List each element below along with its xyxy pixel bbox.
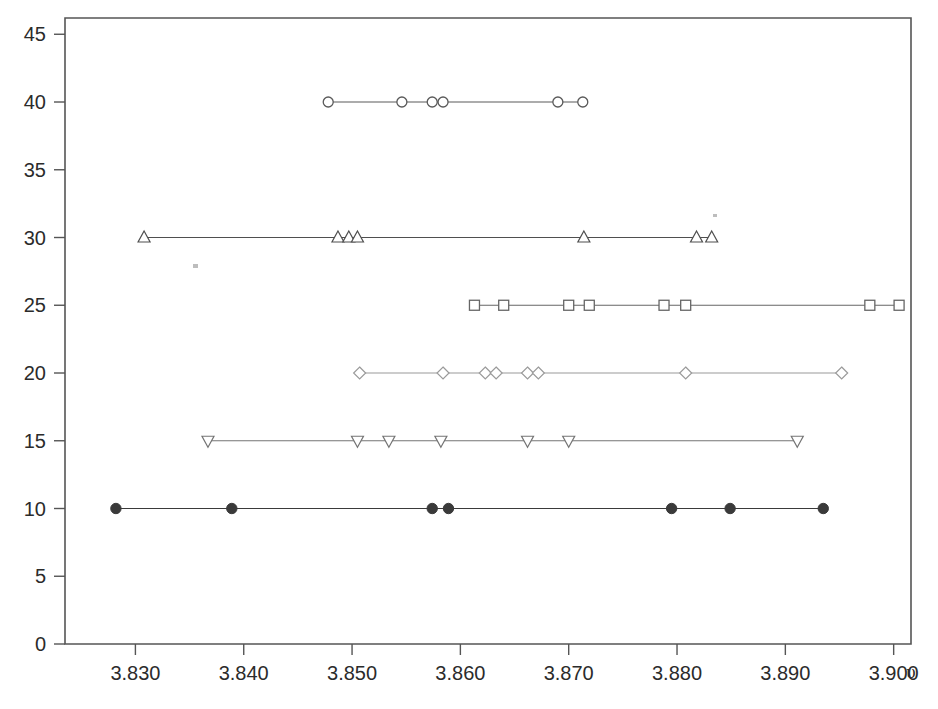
x-tick-label: 3.860 bbox=[435, 662, 485, 684]
data-point-open-square bbox=[469, 300, 479, 310]
x-axis-ticks: 3.8303.8403.8503.8603.8703.8803.8903.900 bbox=[110, 644, 918, 684]
series-row-10 bbox=[111, 503, 829, 513]
y-tick-label: 35 bbox=[24, 159, 46, 181]
data-point-triangle-down bbox=[563, 436, 575, 447]
data-point-open-diamond bbox=[532, 367, 544, 379]
y-tick-label: 10 bbox=[24, 498, 46, 520]
series-row-15 bbox=[202, 436, 803, 447]
data-point-open-diamond bbox=[437, 367, 449, 379]
data-point-open-circle bbox=[427, 97, 437, 107]
data-point-triangle-down bbox=[383, 436, 395, 447]
data-point-open-square bbox=[584, 300, 594, 310]
data-point-triangle-down bbox=[791, 436, 803, 447]
data-point-triangle-up bbox=[138, 231, 150, 242]
scatter-plot: 3.8303.8403.8503.8603.8703.8803.8903.900… bbox=[0, 0, 938, 709]
data-point-open-diamond bbox=[354, 367, 366, 379]
data-point-triangle-up bbox=[706, 231, 718, 242]
data-series-group bbox=[111, 97, 904, 514]
data-point-filled-circle bbox=[427, 503, 437, 513]
y-tick-label: 0 bbox=[35, 633, 46, 655]
series-row-25 bbox=[469, 300, 904, 310]
data-point-open-square bbox=[659, 300, 669, 310]
y-tick-label: 30 bbox=[24, 227, 46, 249]
data-point-triangle-down bbox=[435, 436, 447, 447]
data-point-filled-circle bbox=[111, 503, 121, 513]
scan-speck bbox=[713, 214, 717, 217]
scan-artifacts bbox=[193, 214, 717, 268]
data-point-triangle-down bbox=[522, 436, 534, 447]
data-point-open-circle bbox=[323, 97, 333, 107]
series-row-30 bbox=[138, 231, 718, 242]
data-point-triangle-up bbox=[351, 231, 363, 242]
data-point-filled-circle bbox=[666, 503, 676, 513]
x-tick-label: 3.850 bbox=[327, 662, 377, 684]
y-tick-label: 25 bbox=[24, 294, 46, 316]
data-point-open-square bbox=[681, 300, 691, 310]
data-point-filled-circle bbox=[725, 503, 735, 513]
y-tick-label: 15 bbox=[24, 430, 46, 452]
scan-speck bbox=[193, 264, 198, 268]
data-point-triangle-down bbox=[351, 436, 363, 447]
data-point-filled-circle bbox=[818, 503, 828, 513]
series-row-20 bbox=[354, 367, 848, 379]
data-point-triangle-down bbox=[202, 436, 214, 447]
y-tick-label: 20 bbox=[24, 362, 46, 384]
data-point-filled-circle bbox=[443, 503, 453, 513]
y-axis-ticks: 051015202530354045 bbox=[24, 23, 65, 655]
x-tick-label: 3.890 bbox=[760, 662, 810, 684]
x-tick-label: 3.830 bbox=[110, 662, 160, 684]
y-tick-label: 45 bbox=[24, 23, 46, 45]
data-point-open-square bbox=[499, 300, 509, 310]
data-point-triangle-up bbox=[691, 231, 703, 242]
data-point-filled-circle bbox=[227, 503, 237, 513]
data-point-open-diamond bbox=[490, 367, 502, 379]
y-tick-label: 5 bbox=[35, 565, 46, 587]
plot-border bbox=[65, 18, 911, 644]
data-point-open-circle bbox=[578, 97, 588, 107]
data-point-open-diamond bbox=[836, 367, 848, 379]
series-row-40 bbox=[323, 97, 588, 107]
x-tick-label: 3.870 bbox=[544, 662, 594, 684]
data-point-open-square bbox=[564, 300, 574, 310]
data-point-open-square bbox=[865, 300, 875, 310]
x-axis-title: υ bbox=[906, 661, 915, 682]
data-point-open-circle bbox=[397, 97, 407, 107]
plot-frame bbox=[65, 18, 911, 644]
data-point-triangle-up bbox=[578, 231, 590, 242]
chart-container: 3.8303.8403.8503.8603.8703.8803.8903.900… bbox=[0, 0, 938, 709]
data-point-triangle-up bbox=[332, 231, 344, 242]
data-point-open-circle bbox=[438, 97, 448, 107]
x-tick-label: 3.880 bbox=[652, 662, 702, 684]
data-point-open-diamond bbox=[680, 367, 692, 379]
data-point-open-square bbox=[894, 300, 904, 310]
y-tick-label: 40 bbox=[24, 91, 46, 113]
data-point-open-circle bbox=[553, 97, 563, 107]
x-tick-label: 3.840 bbox=[219, 662, 269, 684]
